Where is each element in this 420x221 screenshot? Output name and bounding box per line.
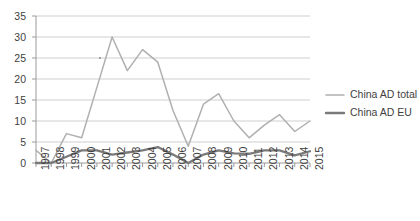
legend-swatch-group <box>326 95 344 113</box>
x-tick-label: 1997 <box>40 147 50 170</box>
legend-label: China AD total <box>350 89 417 100</box>
y-tick-label: 20 <box>4 74 26 84</box>
x-tick-label: 2011 <box>253 147 263 170</box>
x-tick-label: 2007 <box>192 147 202 170</box>
axis-group <box>36 16 310 163</box>
x-tick-label: 2001 <box>101 147 111 170</box>
x-tick-label: 1999 <box>70 147 80 170</box>
x-tick-label: 2006 <box>177 147 187 170</box>
scan-speck <box>99 57 101 59</box>
y-tick-label: 30 <box>4 32 26 42</box>
x-tick-label: 2014 <box>299 147 309 170</box>
x-tick-label: 2008 <box>207 147 217 170</box>
x-tick-label: 2004 <box>147 147 157 170</box>
x-tick-label: 2005 <box>162 147 172 170</box>
x-tick-label: 2010 <box>238 147 248 170</box>
x-tick-label: 2009 <box>223 147 233 170</box>
gridline-group <box>36 16 310 163</box>
x-tick-label: 2003 <box>131 147 141 170</box>
x-tick-label: 2002 <box>116 147 126 170</box>
chart-container: 35302520151050 1997199819992000200120022… <box>0 0 420 221</box>
y-tick-label: 15 <box>4 95 26 105</box>
legend-label: China AD EU <box>350 107 412 118</box>
x-tick-label: 1998 <box>55 147 65 170</box>
tick-group <box>32 16 310 167</box>
y-tick-label: 35 <box>4 11 26 21</box>
x-tick-label: 2000 <box>86 147 96 170</box>
x-tick-label: 2012 <box>268 147 278 170</box>
y-tick-label: 0 <box>4 158 26 168</box>
x-tick-label: 2013 <box>284 147 294 170</box>
x-tick-label: 2015 <box>314 147 324 170</box>
y-tick-label: 10 <box>4 116 26 126</box>
y-tick-label: 25 <box>4 53 26 63</box>
y-tick-label: 5 <box>4 137 26 147</box>
